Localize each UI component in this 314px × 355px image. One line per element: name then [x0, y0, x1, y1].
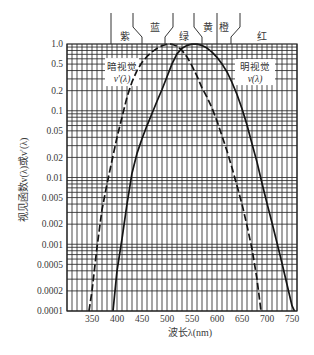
color-band-divider — [194, 13, 202, 44]
y-tick-label: 0.0002 — [37, 286, 63, 296]
color-band-label: 橙 — [219, 21, 229, 33]
color-band-divider — [231, 13, 240, 44]
color-band-markers: 紫蓝绿黄橙红 — [111, 13, 267, 44]
y-tick-label: 0.05 — [46, 126, 63, 136]
scotopic-label-title: 暗视觉 — [107, 61, 137, 72]
y-tick-label: 1.0 — [51, 39, 63, 49]
x-tick-label: 400 — [110, 314, 125, 324]
x-tick-label: 550 — [185, 314, 200, 324]
color-band-divider — [133, 13, 142, 44]
color-band-label: 绿 — [179, 30, 189, 42]
y-tick-label: 0.005 — [42, 193, 64, 203]
scotopic-label-box: 暗视觉 v'(λ) — [105, 58, 139, 86]
color-band-label: 黄 — [203, 21, 213, 33]
y-tick-label: 0.2 — [51, 86, 63, 96]
y-tick-label: 0.0005 — [37, 260, 63, 270]
curve-annotations: 暗视觉 v'(λ) 明视觉 v(λ) — [105, 58, 275, 86]
x-tick-label: 600 — [210, 314, 225, 324]
y-tick-label: 0.001 — [42, 240, 64, 250]
x-tick-label: 700 — [260, 314, 275, 324]
y-tick-label: 0.1 — [51, 106, 63, 116]
y-tick-label: 0.02 — [46, 153, 63, 163]
x-tick-label: 750 — [285, 314, 300, 324]
photopic-label-symbol: v(λ) — [248, 74, 263, 85]
x-tick-label: 500 — [160, 314, 175, 324]
photopic-label-title: 明视觉 — [240, 61, 270, 72]
y-tick-label: 0.01 — [46, 173, 63, 183]
y-tick-label: 0.0001 — [37, 306, 63, 316]
x-axis-ticks: 350400450500550600650700750 — [85, 314, 300, 324]
y-tick-label: 0.002 — [42, 219, 64, 229]
photopic-label-box: 明视觉 v(λ) — [235, 59, 275, 85]
y-tick-label: 0.5 — [51, 59, 63, 69]
x-axis-title: 波长λ(nm) — [168, 326, 212, 339]
y-axis-title: 视见函数v(λ)或v'(λ) — [17, 138, 30, 223]
x-tick-label: 650 — [235, 314, 250, 324]
color-band-label: 紫 — [120, 31, 130, 42]
luminosity-chart: 暗视觉 v'(λ) 明视觉 v(λ) 紫蓝绿黄橙红 1.00.50.20.10.… — [0, 0, 314, 355]
color-band-label: 红 — [257, 30, 267, 42]
x-tick-label: 350 — [85, 314, 100, 324]
color-band-label: 蓝 — [150, 22, 160, 33]
color-band-divider — [165, 13, 173, 44]
y-axis-ticks: 1.00.50.20.10.050.020.010.0050.0020.0010… — [37, 39, 63, 316]
chart-figure: 暗视觉 v'(λ) 明视觉 v(λ) 紫蓝绿黄橙红 1.00.50.20.10.… — [0, 0, 314, 355]
x-tick-label: 450 — [135, 314, 150, 324]
scotopic-label-symbol: v'(λ) — [114, 74, 131, 85]
